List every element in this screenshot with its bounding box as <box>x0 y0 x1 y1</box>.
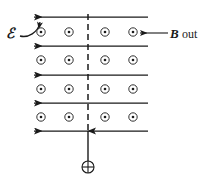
b-field-label: B out <box>170 27 197 40</box>
b-field-symbol: B <box>170 26 179 41</box>
dot-row-1 <box>37 28 137 36</box>
emf-label: ℰ <box>6 27 14 41</box>
positive-charge-symbol <box>82 161 94 173</box>
b-field-direction-text: out <box>182 27 197 41</box>
dot-row-4 <box>37 113 137 121</box>
field-line-group <box>34 17 148 131</box>
physics-diagram: ℰ B out <box>0 0 208 181</box>
dot-row-3 <box>37 85 137 93</box>
dot-row-2 <box>37 56 137 64</box>
